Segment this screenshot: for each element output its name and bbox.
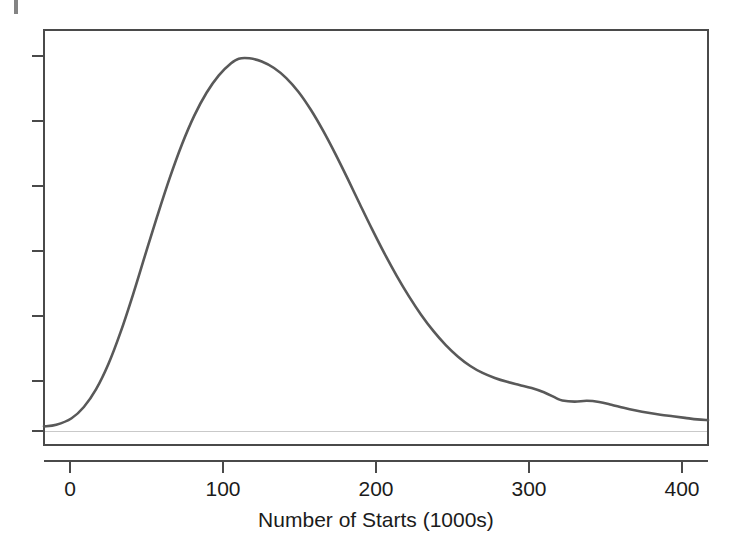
scan-artifact-mark [14, 0, 18, 14]
y-axis-ticks [32, 56, 44, 431]
chart-canvas: 0 100 200 300 400 Number of Starts (1000… [0, 0, 735, 540]
x-axis-ticks [70, 461, 682, 473]
x-tick-label-0: 0 [64, 477, 76, 500]
x-tick-label-300: 300 [511, 477, 546, 500]
density-curve-path [44, 58, 708, 426]
density-plot-figure: 0 100 200 300 400 Number of Starts (1000… [0, 0, 735, 540]
x-tick-label-400: 400 [664, 477, 699, 500]
x-tick-label-100: 100 [205, 477, 240, 500]
x-tick-label-200: 200 [358, 477, 393, 500]
x-axis-title: Number of Starts (1000s) [258, 508, 494, 531]
